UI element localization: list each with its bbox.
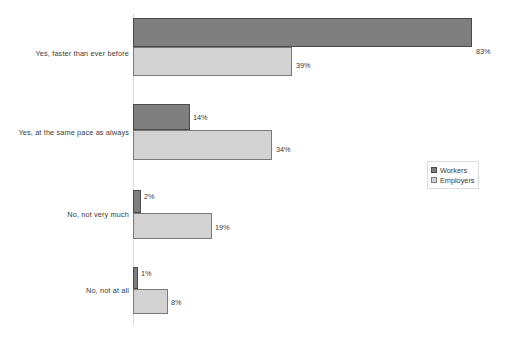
- legend-item-workers[interactable]: Workers: [431, 165, 474, 175]
- category-label: No, not at all: [0, 286, 129, 295]
- bar-value-employers: 34%: [276, 145, 291, 154]
- bar-value-workers: 83%: [476, 47, 491, 56]
- bar-employers: [133, 213, 212, 239]
- bar-value-workers: 14%: [193, 113, 208, 122]
- legend-label: Employers: [440, 176, 474, 185]
- bar-employers: [133, 47, 292, 76]
- category-group: No, not at all 1% 8%: [0, 267, 507, 322]
- bar-value-workers: 2%: [144, 192, 155, 201]
- category-group: Yes, faster than ever before 83% 39%: [0, 18, 507, 88]
- bar-employers: [133, 289, 168, 314]
- category-label: Yes, faster than ever before: [0, 49, 129, 58]
- bar-value-workers: 1%: [141, 269, 152, 278]
- category-group: No, not very much 2% 19%: [0, 190, 507, 250]
- legend: Workers Employers: [427, 161, 479, 189]
- category-label: No, not very much: [0, 210, 129, 219]
- bar-value-employers: 39%: [296, 61, 311, 70]
- category-label: Yes, at the same pace as always: [0, 128, 129, 137]
- bar-employers: [133, 130, 272, 160]
- bar-workers: [133, 190, 141, 213]
- legend-item-employers[interactable]: Employers: [431, 175, 474, 185]
- legend-label: Workers: [440, 166, 467, 175]
- bar-workers: [133, 104, 190, 130]
- bar-value-employers: 19%: [215, 223, 230, 232]
- legend-swatch-icon: [431, 167, 437, 173]
- bar-workers: [133, 267, 138, 289]
- legend-swatch-icon: [431, 177, 437, 183]
- bar-value-employers: 8%: [171, 298, 182, 307]
- bar-chart: Yes, faster than ever before 83% 39% Yes…: [0, 0, 507, 353]
- bar-workers: [133, 18, 472, 47]
